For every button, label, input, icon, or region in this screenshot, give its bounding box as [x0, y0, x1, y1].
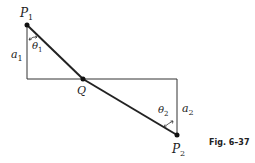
- label-a1: a1: [11, 48, 23, 63]
- figure-caption: Fig. 6–37: [209, 138, 249, 147]
- label-p2: P2: [171, 142, 185, 158]
- point-q: [81, 77, 86, 82]
- diagram: P1 a1 θ1 Q θ2 a2 P2 Fig. 6–37: [0, 0, 255, 163]
- label-p1: P1: [19, 6, 33, 22]
- label-q: Q: [77, 84, 86, 97]
- theta2-arrow-icon: [164, 121, 173, 127]
- label-theta1: θ1: [32, 40, 43, 54]
- label-a2: a2: [182, 102, 194, 117]
- path-p1-q: [27, 25, 83, 79]
- label-theta2: θ2: [158, 104, 169, 118]
- point-p2: [175, 133, 180, 138]
- point-p1: [25, 23, 30, 28]
